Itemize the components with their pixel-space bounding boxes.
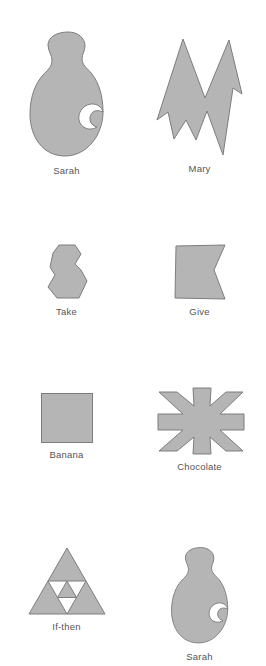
shape-item-sarah-bottom: Sarah: [133, 546, 266, 663]
shape-label: Sarah: [186, 651, 212, 663]
sierpinski-triangle-shape-icon: [28, 546, 106, 616]
shape-label: If-then: [52, 621, 80, 633]
animal-silhouette-shape-icon: [169, 546, 231, 646]
shape-item-chocolate: Chocolate: [133, 386, 266, 473]
small-hourglass-hexagon-shape-icon: [45, 243, 89, 301]
shape-label: Take: [56, 306, 77, 318]
shape-label: Give: [189, 306, 209, 318]
shape-label: Chocolate: [177, 461, 222, 473]
bowtie-shape-icon: [172, 243, 228, 301]
six-point-asterisk-shape-icon: [154, 386, 246, 456]
shape-item-if-then: If-then: [0, 546, 133, 633]
shape-label: Banana: [50, 449, 84, 461]
shape-label: Sarah: [53, 165, 79, 177]
shape-item-mary: Mary: [133, 36, 266, 175]
square-shape-icon: [40, 392, 94, 444]
angular-m-star-shape-icon: [155, 36, 245, 158]
shape-label-figure: Sarah Mary Take Give: [0, 0, 266, 666]
shape-item-take: Take: [0, 243, 133, 318]
animal-silhouette-shape-icon: [27, 30, 107, 160]
shape-item-sarah-top: Sarah: [0, 30, 133, 177]
shape-item-banana: Banana: [0, 392, 133, 461]
shape-label: Mary: [189, 163, 211, 175]
shape-item-give: Give: [133, 243, 266, 318]
